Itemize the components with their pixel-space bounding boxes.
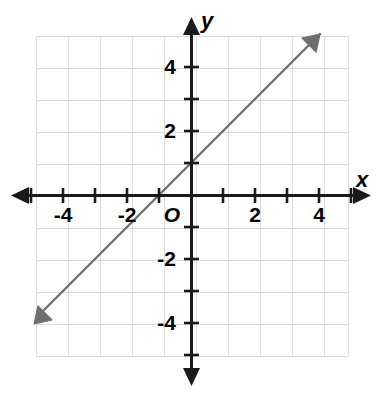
y-tick-label-neg2: -2	[157, 247, 176, 270]
y-axis-label: y	[200, 8, 215, 33]
x-tick-label-pos2: 2	[249, 203, 261, 226]
x-tick-label-pos4: 4	[313, 203, 325, 226]
coordinate-plane-graph: -4 -2 2 4 4 2 -2 -4 y x O	[0, 0, 379, 398]
y-axis-arrow-down	[183, 368, 200, 386]
origin-label: O	[164, 203, 180, 226]
x-axis-arrow-left	[11, 187, 29, 204]
y-tick-label-pos2: 2	[164, 119, 176, 142]
x-axis-label: x	[355, 167, 369, 192]
y-axis-arrow-up	[183, 17, 200, 35]
graph-canvas: -4 -2 2 4 4 2 -2 -4 y x O	[0, 0, 379, 398]
plotted-line-series	[34, 34, 320, 324]
y-axis	[183, 17, 200, 386]
line-segment	[44, 34, 320, 310]
x-axis-tick-labels: -4 -2 2 4	[54, 203, 326, 226]
y-tick-label-pos4: 4	[164, 55, 176, 78]
x-tick-label-neg2: -2	[118, 203, 137, 226]
y-tick-label-neg4: -4	[157, 311, 176, 334]
x-tick-label-neg4: -4	[54, 203, 73, 226]
